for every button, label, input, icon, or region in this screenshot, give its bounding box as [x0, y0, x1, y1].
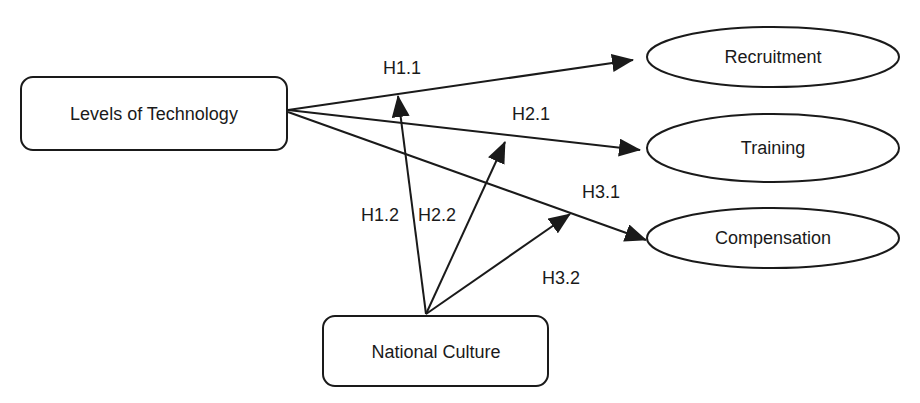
edge-label-h3-2: H3.2	[542, 268, 580, 288]
node-label: Levels of Technology	[70, 104, 238, 124]
node-national-culture: National Culture	[323, 316, 548, 386]
edge-label-h2-1: H2.1	[512, 104, 550, 124]
research-model-diagram: Levels of Technology National Culture Re…	[0, 0, 920, 403]
node-training: Training	[647, 114, 899, 182]
node-label: Recruitment	[724, 47, 821, 67]
edge-label-h1-1: H1.1	[383, 58, 421, 78]
arrow-h3-2	[426, 214, 570, 314]
edge-label-h1-2: H1.2	[361, 205, 399, 225]
arrow-h2-2	[426, 142, 505, 314]
edge-label-h3-1: H3.1	[582, 182, 620, 202]
node-recruitment: Recruitment	[647, 27, 899, 87]
node-label: Compensation	[715, 228, 831, 248]
node-label: National Culture	[371, 342, 500, 362]
edge-label-h2-2: H2.2	[418, 205, 456, 225]
arrow-h1-1	[288, 60, 633, 110]
node-label: Training	[741, 138, 805, 158]
node-compensation: Compensation	[647, 208, 899, 268]
node-levels-of-technology: Levels of Technology	[21, 77, 287, 150]
